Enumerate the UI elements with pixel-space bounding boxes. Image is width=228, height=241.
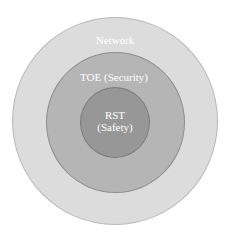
safety-label: (Safety) bbox=[1, 121, 228, 133]
concentric-layers-diagram: Network TOE (Security) RST (Safety) bbox=[0, 0, 228, 241]
toe-security-label: TOE (Security) bbox=[0, 71, 228, 83]
network-label: Network bbox=[1, 34, 228, 46]
rst-label: RST bbox=[1, 109, 228, 121]
